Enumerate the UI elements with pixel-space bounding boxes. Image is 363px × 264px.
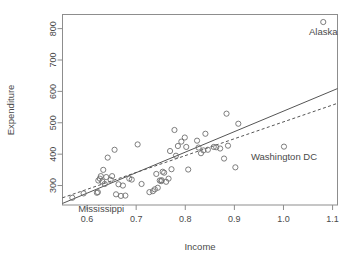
y-tick-label: 700 [48, 52, 58, 67]
y-axis-title: Expenditure [5, 85, 16, 136]
y-tick-label: 600 [48, 84, 58, 99]
y-tick-label: 500 [48, 115, 58, 130]
annotation-label: Washington DC [251, 151, 317, 162]
annotation-label: Mississippi [78, 203, 124, 214]
x-tick-label: 0.6 [81, 214, 94, 224]
y-tick-label: 800 [48, 21, 58, 36]
x-tick-label: 0.8 [179, 214, 192, 224]
y-tick-label: 400 [48, 147, 58, 162]
plot-canvas: 0.60.70.80.91.01.1 300400500600700800 Mi… [0, 0, 363, 264]
scatter-plot-figure: 0.60.70.80.91.01.1 300400500600700800 Mi… [0, 0, 363, 264]
x-tick-label: 0.7 [130, 214, 143, 224]
annotation-label: Alaska [309, 26, 338, 37]
x-tick-label: 1.0 [277, 214, 290, 224]
y-tick-label: 300 [48, 178, 58, 193]
figure-background [0, 0, 363, 264]
x-axis-title: Income [184, 241, 215, 252]
x-tick-label: 0.9 [228, 214, 241, 224]
x-tick-label: 1.1 [326, 214, 339, 224]
